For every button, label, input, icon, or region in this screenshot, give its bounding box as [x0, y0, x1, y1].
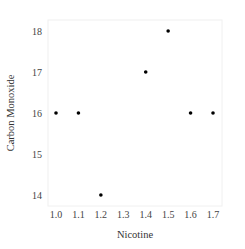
data-point [189, 111, 193, 115]
x-tick-label: 1.7 [207, 209, 220, 220]
x-tick-label: 1.3 [117, 209, 130, 220]
x-tick-label: 1.0 [50, 209, 63, 220]
data-point [166, 29, 170, 33]
data-point [99, 193, 103, 197]
plot-panel [48, 20, 222, 206]
y-tick-label: 15 [32, 149, 42, 160]
scatter-chart: 1415161718 1.01.11.21.31.41.51.61.7 Nico… [0, 0, 245, 249]
y-axis-ticks: 1415161718 [32, 26, 42, 201]
x-tick-label: 1.2 [95, 209, 108, 220]
y-axis-label: Carbon Monoxide [5, 74, 16, 151]
y-tick-label: 17 [32, 67, 42, 78]
x-tick-label: 1.1 [72, 209, 85, 220]
data-point [54, 111, 58, 115]
y-tick-label: 18 [32, 26, 42, 37]
x-tick-label: 1.4 [139, 209, 152, 220]
x-tick-label: 1.6 [184, 209, 197, 220]
data-point [77, 111, 81, 115]
x-tick-label: 1.5 [162, 209, 175, 220]
y-tick-label: 14 [32, 190, 42, 201]
data-point [211, 111, 215, 115]
data-point [144, 70, 148, 74]
x-axis-label: Nicotine [117, 229, 153, 240]
y-tick-label: 16 [32, 108, 42, 119]
x-axis-ticks: 1.01.11.21.31.41.51.61.7 [50, 209, 220, 220]
